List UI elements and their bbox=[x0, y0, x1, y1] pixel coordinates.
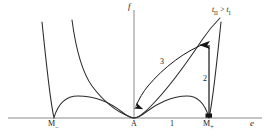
free-energy-diagram: f e M– A 1 M+ tII > tI 3 2 bbox=[0, 0, 268, 137]
transition-path-3 bbox=[136, 43, 207, 106]
diagram-canvas bbox=[0, 0, 268, 137]
y-axis-label: f bbox=[128, 2, 131, 11]
path-2-base-marker bbox=[206, 114, 213, 118]
path-label-3: 3 bbox=[160, 58, 164, 66]
curve-t-one-low-temperature bbox=[42, 22, 221, 118]
curve-t-two-high-temperature bbox=[72, 18, 220, 118]
tick-label-a: A bbox=[131, 120, 137, 128]
tick-label-m-minus: M– bbox=[48, 120, 58, 130]
tick-label-m-plus: M+ bbox=[203, 120, 214, 130]
x-axis-label: e bbox=[250, 119, 254, 128]
temperature-condition-label: tII > tI bbox=[212, 6, 231, 16]
path-label-2: 2 bbox=[203, 75, 207, 83]
tick-label-one: 1 bbox=[170, 120, 174, 128]
